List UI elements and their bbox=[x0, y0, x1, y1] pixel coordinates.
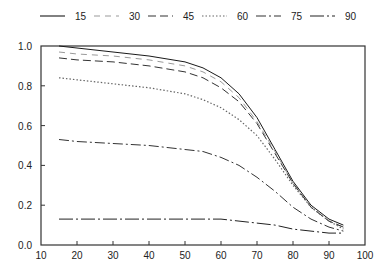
legend-label-90: 90 bbox=[345, 11, 357, 22]
legend-label-60: 60 bbox=[237, 11, 249, 22]
x-tick-label: 80 bbox=[287, 250, 299, 261]
x-tick-label: 90 bbox=[323, 250, 335, 261]
x-tick-label: 20 bbox=[71, 250, 83, 261]
legend-label-75: 75 bbox=[291, 11, 303, 22]
y-tick-label: 1.0 bbox=[18, 41, 32, 52]
x-tick-label: 30 bbox=[107, 250, 119, 261]
x-tick-label: 100 bbox=[357, 250, 374, 261]
y-tick-label: 0.0 bbox=[18, 240, 32, 251]
x-tick-label: 60 bbox=[215, 250, 227, 261]
y-tick-label: 0.2 bbox=[18, 200, 32, 211]
series-line-30 bbox=[59, 52, 343, 227]
y-tick-label: 0.4 bbox=[18, 160, 32, 171]
x-tick-label: 70 bbox=[251, 250, 263, 261]
line-chart: 153045607590 102030405060708090100 0.00.… bbox=[0, 0, 383, 275]
series-lines bbox=[59, 46, 343, 233]
y-tick-label: 0.8 bbox=[18, 81, 32, 92]
legend-label-30: 30 bbox=[129, 11, 141, 22]
plot-area bbox=[41, 46, 365, 245]
legend: 153045607590 bbox=[40, 11, 357, 22]
series-line-15 bbox=[59, 46, 343, 225]
series-line-60 bbox=[59, 78, 343, 229]
x-tick-label: 40 bbox=[143, 250, 155, 261]
x-tick-label: 50 bbox=[179, 250, 191, 261]
y-tick-label: 0.6 bbox=[18, 121, 32, 132]
x-tick-label: 10 bbox=[35, 250, 47, 261]
series-line-75 bbox=[59, 140, 343, 232]
x-axis: 102030405060708090100 bbox=[35, 241, 373, 261]
plot-border bbox=[41, 46, 365, 245]
legend-label-15: 15 bbox=[75, 11, 87, 22]
series-line-90 bbox=[59, 219, 343, 233]
legend-label-45: 45 bbox=[183, 11, 195, 22]
